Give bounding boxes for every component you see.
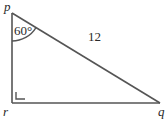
right-angle-marker-r xyxy=(16,92,25,99)
vertex-label-p: p xyxy=(3,0,11,14)
hypotenuse-length-label: 12 xyxy=(88,29,101,44)
angle-label-p: 60° xyxy=(14,23,32,38)
vertex-label-r: r xyxy=(3,104,9,119)
vertex-label-q: q xyxy=(158,104,165,119)
triangle-diagram: p r q 60° 12 xyxy=(0,0,167,119)
hypotenuse-pq xyxy=(12,13,160,103)
